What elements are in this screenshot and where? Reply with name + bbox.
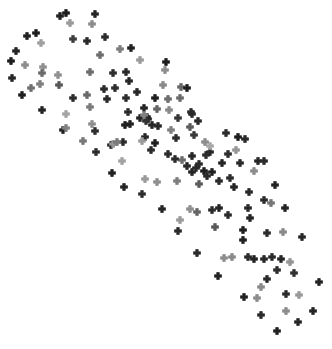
scatter-plot-figure [0, 0, 332, 349]
plot-background [0, 0, 332, 349]
scatter-plot-canvas [0, 0, 332, 349]
